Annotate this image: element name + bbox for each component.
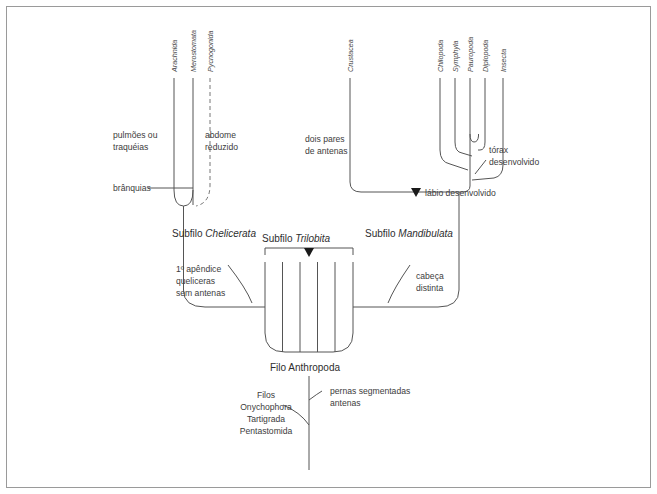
node-pauropoda-diplopoda (470, 134, 479, 142)
annotation-labio: lábio desenvolvido (425, 188, 496, 198)
node-chilopoda-join (440, 150, 468, 170)
annotation-pulmoes-line2: traquéias (113, 142, 148, 152)
clade-label-mandibulata-prefix: Subfilo (365, 228, 398, 239)
taxon-label-insecta: Insecta (499, 49, 508, 72)
taxon-label-arachnida: Arachnida (170, 40, 179, 73)
annotation-cabeca-line2: distinta (416, 283, 443, 293)
annotation-torax-line1: tórax (489, 145, 509, 155)
annotation-apendice-line3: sem antenas (176, 288, 225, 298)
clade-label-mandibulata: Subfilo Mandibulata (365, 228, 453, 239)
node-diplopoda-link (478, 142, 485, 150)
outgroup-heading: Filos (257, 390, 275, 400)
annotation-apendice-line2: queliceras (176, 276, 215, 286)
annotation-torax-line2: desenvolvido (489, 157, 539, 167)
taxon-label-diplopoda: Diplopoda (481, 40, 490, 72)
taxon-label-pycnogonida: Pycnogonida (206, 30, 215, 72)
cladogram-figure: Arachnida Merostomata Pycnogonida Crusta… (0, 0, 657, 494)
arthropoda-trunk-outline (265, 262, 353, 352)
branch-crustacea (350, 78, 420, 192)
leader-pernas (309, 391, 322, 400)
taxon-label-symphyla: Symphyla (451, 40, 460, 72)
annotation-abdome-line1: abdome (205, 130, 236, 140)
connector-mandibulata-trunk (353, 230, 459, 307)
clade-label-trilobita-name: Trilobita (295, 233, 330, 244)
outgroup-item-tartigrada: Tartigrada (247, 414, 285, 424)
node-symphyla-join (455, 142, 472, 156)
annotation-pulmoes-line1: pulmões ou (113, 130, 158, 140)
outgroup-item-pentastomida: Pentastomida (240, 426, 293, 436)
clade-label-filo-prefix: Filo (270, 362, 288, 373)
clade-label-chelicerata-prefix: Subfilo (172, 228, 205, 239)
clade-label-chelicerata-name: Chelicerata (205, 228, 256, 239)
annotation-antenas-line1: dois pares (305, 134, 345, 144)
taxon-label-crustacea: Crustacea (346, 39, 355, 72)
clade-label-chelicerata: Subfilo Chelicerata (172, 228, 256, 239)
clade-label-mandibulata-name: Mandibulata (398, 228, 453, 239)
figure-border (7, 7, 651, 488)
clade-label-trilobita-prefix: Subfilo (262, 233, 295, 244)
annotation-apendice-line1: 1º apêndice (176, 264, 221, 274)
leader-apendice (228, 265, 252, 303)
annotation-antenas-line2: de antenas (305, 146, 348, 156)
leader-cabeca (388, 265, 410, 303)
clade-label-filo-arthropoda: Filo Anthropoda (270, 362, 340, 373)
annotation-cabeca-line1: cabeça (416, 271, 444, 281)
clade-label-trilobita: Subfilo Trilobita (262, 233, 331, 244)
cladogram-canvas: Arachnida Merostomata Pycnogonida Crusta… (0, 0, 657, 494)
annotation-branquias: brânquias (113, 183, 151, 193)
leader-torax (475, 160, 486, 174)
clade-label-filo-name: Anthropoda (288, 362, 340, 373)
annotation-abdome-line2: reduzido (205, 142, 238, 152)
outgroup-item-onychophora: Onychophora (240, 402, 292, 412)
node-chelicerata-join (174, 190, 193, 206)
taxon-label-pauropoda: Pauropoda (466, 37, 475, 72)
annotation-pernas-line1: pernas segmentadas (330, 386, 410, 396)
trilobita-triangle-marker (304, 248, 314, 257)
annotation-pernas-line2: antenas (330, 398, 361, 408)
taxon-label-merostomata: Merostomata (189, 30, 198, 72)
taxon-label-chilopoda: Chilopoda (436, 40, 445, 72)
